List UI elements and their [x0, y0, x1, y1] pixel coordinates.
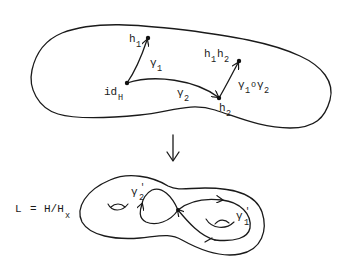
loop-gamma1-prime [178, 199, 222, 210]
svg-text:1: 1 [244, 218, 249, 228]
svg-text:2: 2 [139, 193, 144, 203]
svg-text:H/H: H/H [44, 203, 64, 215]
svg-text:h: h [129, 33, 136, 45]
svg-text:1: 1 [211, 55, 216, 65]
diagram-canvas: h 1 γ 1 id H γ 2 h 2 h 1 h 2 γ 1 o γ [0, 0, 350, 275]
point-h2 [217, 96, 221, 100]
label-gamma2-prime: γ ' 2 [131, 183, 145, 203]
label-idH: id H [104, 86, 123, 103]
svg-text:γ: γ [177, 87, 184, 99]
equation-label: L = H/H x [15, 203, 70, 221]
loop-gamma2-prime [142, 189, 178, 210]
space-H-boundary [31, 25, 331, 128]
label-gamma1-prime: γ ' 1 [236, 207, 250, 228]
label-gamma2: γ 2 [177, 87, 189, 104]
label-gamma1: γ 1 [150, 57, 162, 74]
svg-text:1: 1 [245, 86, 250, 96]
svg-text:2: 2 [184, 94, 189, 104]
svg-text:L: L [15, 203, 22, 215]
svg-text:': ' [245, 207, 250, 217]
svg-text:2: 2 [224, 55, 229, 65]
svg-text:1: 1 [157, 64, 162, 74]
svg-text:γ: γ [150, 57, 157, 69]
svg-text:h: h [217, 48, 224, 60]
svg-text:2: 2 [264, 86, 269, 96]
svg-text:h: h [204, 48, 211, 60]
svg-text:γ: γ [257, 79, 264, 91]
bottom-space-L: γ ' 2 γ ' 1 [80, 176, 264, 255]
svg-text:id: id [104, 86, 117, 98]
point-idH [125, 81, 129, 85]
path-gamma2 [127, 79, 218, 97]
basepoint [176, 208, 180, 212]
svg-text:γ: γ [236, 210, 243, 222]
svg-text:': ' [140, 183, 145, 193]
path-gamma1-o-gamma2 [219, 63, 238, 98]
label-h2: h 2 [219, 102, 231, 119]
svg-text:x: x [65, 211, 70, 221]
svg-text:1: 1 [136, 40, 141, 50]
svg-text:h: h [219, 102, 226, 114]
label-gamma1-o-gamma2: γ 1 o γ 2 [238, 79, 269, 96]
svg-text:o: o [251, 80, 256, 90]
svg-text:H: H [118, 93, 123, 103]
svg-text:2: 2 [226, 109, 231, 119]
label-h1: h 1 [129, 33, 141, 50]
label-h1h2: h 1 h 2 [204, 48, 229, 65]
point-h1h2 [237, 59, 241, 63]
map-arrow [167, 135, 179, 161]
top-space-H: h 1 γ 1 id H γ 2 h 2 h 1 h 2 γ 1 o γ [31, 25, 331, 128]
svg-text:=: = [30, 203, 37, 215]
point-h1 [146, 36, 150, 40]
svg-text:γ: γ [131, 186, 138, 198]
svg-text:γ: γ [238, 79, 245, 91]
